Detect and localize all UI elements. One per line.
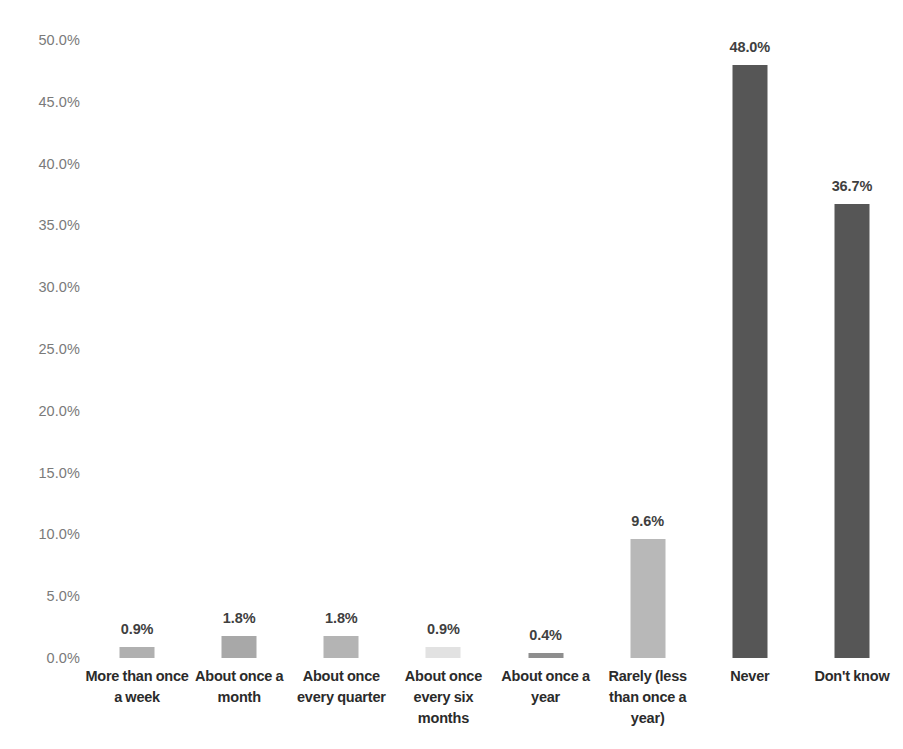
x-axis-category-label: About once a year xyxy=(494,666,598,708)
bar-chart: 0.0%5.0%10.0%15.0%20.0%25.0%30.0%35.0%40… xyxy=(0,0,903,749)
y-axis-tick-label: 35.0% xyxy=(0,217,80,233)
bar-group: 0.4%About once a year xyxy=(495,0,597,749)
bar-value-label: 1.8% xyxy=(325,610,358,626)
bar[interactable] xyxy=(528,653,563,658)
bar-value-label: 0.9% xyxy=(427,621,460,637)
y-axis: 0.0%5.0%10.0%15.0%20.0%25.0%30.0%35.0%40… xyxy=(0,0,86,749)
bar-group: 0.9%About once every six months xyxy=(392,0,494,749)
bar-group: 9.6%Rarely (less than once a year) xyxy=(597,0,699,749)
bar-group: 1.8%About once every quarter xyxy=(290,0,392,749)
bar[interactable] xyxy=(324,636,359,658)
y-axis-tick-label: 50.0% xyxy=(0,32,80,48)
bar[interactable] xyxy=(426,647,461,658)
x-axis-category-label: Rarely (less than once a year) xyxy=(596,666,700,729)
x-axis-category-label: About once every quarter xyxy=(289,666,393,708)
y-axis-tick-label: 15.0% xyxy=(0,465,80,481)
bar[interactable] xyxy=(630,539,665,658)
bar[interactable] xyxy=(222,636,257,658)
bar-group: 1.8%About once a month xyxy=(188,0,290,749)
bar-value-label: 0.4% xyxy=(529,627,562,643)
bar[interactable] xyxy=(834,204,869,658)
y-axis-tick-label: 40.0% xyxy=(0,156,80,172)
bar-value-label: 9.6% xyxy=(631,513,664,529)
bar-group: 48.0%Never xyxy=(699,0,801,749)
y-axis-tick-label: 20.0% xyxy=(0,403,80,419)
bar-value-label: 0.9% xyxy=(121,621,154,637)
bar-group: 36.7%Don't know xyxy=(801,0,903,749)
bar[interactable] xyxy=(732,65,767,658)
x-axis-category-label: Don't know xyxy=(800,666,903,687)
y-axis-tick-label: 10.0% xyxy=(0,526,80,542)
x-axis-category-label: Never xyxy=(698,666,802,687)
bar-group: 0.9%More than once a week xyxy=(86,0,188,749)
x-axis-category-label: About once every six months xyxy=(391,666,495,729)
bar-value-label: 48.0% xyxy=(730,39,771,55)
bar-value-label: 1.8% xyxy=(223,610,256,626)
y-axis-tick-label: 25.0% xyxy=(0,341,80,357)
y-axis-tick-label: 5.0% xyxy=(0,588,80,604)
x-axis-category-label: More than once a week xyxy=(85,666,189,708)
bar[interactable] xyxy=(120,647,155,658)
plot-area: 0.9%More than once a week1.8%About once … xyxy=(86,0,903,749)
x-axis-category-label: About once a month xyxy=(187,666,291,708)
y-axis-tick-label: 30.0% xyxy=(0,279,80,295)
y-axis-tick-label: 45.0% xyxy=(0,94,80,110)
y-axis-tick-label: 0.0% xyxy=(0,650,80,666)
bar-value-label: 36.7% xyxy=(832,178,873,194)
